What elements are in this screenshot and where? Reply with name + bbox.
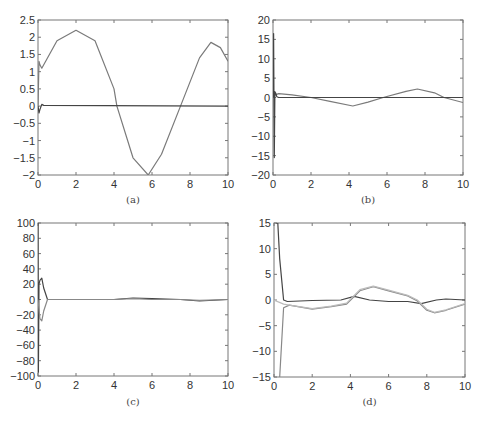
y-tick-label: −15 xyxy=(251,150,270,162)
y-tick-label: 0.5 xyxy=(20,83,35,95)
y-tick-label: −5 xyxy=(257,111,270,123)
subplot-b: 0246810−20−15−10−505101520(b) xyxy=(251,14,469,205)
y-tick-label: 1 xyxy=(29,66,35,78)
subplot-caption: (a) xyxy=(126,194,140,205)
series-reference xyxy=(38,30,228,175)
y-tick-label: −20 xyxy=(16,309,35,321)
x-tick-label: 8 xyxy=(187,379,193,391)
x-tick-label: 10 xyxy=(459,380,471,392)
x-tick-label: 4 xyxy=(346,178,352,190)
x-tick-label: 2 xyxy=(308,178,314,190)
y-tick-label: 0 xyxy=(29,100,35,112)
y-tick-label: −0.5 xyxy=(13,117,35,129)
y-tick-label: −80 xyxy=(16,355,35,367)
y-tick-label: −60 xyxy=(16,339,35,351)
x-tick-label: 6 xyxy=(149,178,155,190)
x-tick-label: 0 xyxy=(35,178,41,190)
x-tick-label: 0 xyxy=(271,380,277,392)
x-tick-label: 2 xyxy=(73,178,79,190)
y-tick-label: 80 xyxy=(23,232,35,244)
series-error xyxy=(38,104,228,113)
y-tick-label: 40 xyxy=(23,263,35,275)
series-upper xyxy=(38,223,228,372)
axes-frame xyxy=(38,20,228,175)
y-tick-label: −2 xyxy=(22,169,35,181)
series-lower xyxy=(38,299,228,321)
y-tick-label: −10 xyxy=(252,345,271,357)
y-tick-label: 1.5 xyxy=(20,48,35,60)
y-tick-label: 15 xyxy=(259,217,271,229)
x-tick-label: 6 xyxy=(384,178,390,190)
x-tick-label: 2 xyxy=(73,379,79,391)
x-tick-label: 4 xyxy=(111,379,117,391)
series-slow-2 xyxy=(274,286,465,312)
y-tick-label: 2.5 xyxy=(20,14,35,26)
subplot-d: 0246810−15−10−5051015(d) xyxy=(252,217,471,407)
y-tick-label: 15 xyxy=(258,33,270,45)
figure: 0246810−2−1.5−1−0.500.511.522.5(a) 02468… xyxy=(0,0,486,422)
y-tick-label: 60 xyxy=(23,248,35,260)
y-tick-label: 5 xyxy=(264,72,270,84)
subplot-caption: (c) xyxy=(126,396,140,407)
y-tick-label: 100 xyxy=(17,217,35,229)
subplot-a: 0246810−2−1.5−1−0.500.511.522.5(a) xyxy=(13,14,234,205)
x-tick-label: 10 xyxy=(222,178,234,190)
y-tick-label: 0 xyxy=(29,294,35,306)
y-tick-label: 0 xyxy=(265,294,271,306)
x-tick-label: 8 xyxy=(424,380,430,392)
subplot-c: 0246810−100−80−60−40−20020406080100(c) xyxy=(10,217,234,407)
x-tick-label: 8 xyxy=(187,178,193,190)
y-tick-label: 2 xyxy=(29,31,35,43)
x-tick-label: 4 xyxy=(347,380,353,392)
x-tick-label: 10 xyxy=(457,178,469,190)
x-tick-label: 2 xyxy=(309,380,315,392)
x-tick-label: 6 xyxy=(386,380,392,392)
y-tick-label: −5 xyxy=(258,320,271,332)
y-tick-label: 5 xyxy=(265,268,271,280)
y-tick-label: −100 xyxy=(10,370,35,382)
subplot-caption: (b) xyxy=(361,194,375,205)
x-tick-label: 8 xyxy=(422,178,428,190)
x-tick-label: 0 xyxy=(35,379,41,391)
y-tick-label: −10 xyxy=(251,130,270,142)
y-tick-label: 20 xyxy=(258,14,270,26)
y-tick-label: −20 xyxy=(251,169,270,181)
series-fast xyxy=(276,223,465,304)
y-tick-label: 10 xyxy=(259,243,271,255)
y-tick-label: 10 xyxy=(258,53,270,65)
x-tick-label: 4 xyxy=(111,178,117,190)
y-tick-label: −15 xyxy=(252,371,271,383)
y-tick-label: 0 xyxy=(264,92,270,104)
y-tick-label: 20 xyxy=(23,278,35,290)
x-tick-label: 0 xyxy=(270,178,276,190)
x-tick-label: 10 xyxy=(222,379,234,391)
y-tick-label: −1.5 xyxy=(13,152,35,164)
y-tick-label: −1 xyxy=(22,135,35,147)
y-tick-label: −40 xyxy=(16,324,35,336)
x-tick-label: 6 xyxy=(149,379,155,391)
subplot-caption: (d) xyxy=(362,396,376,407)
